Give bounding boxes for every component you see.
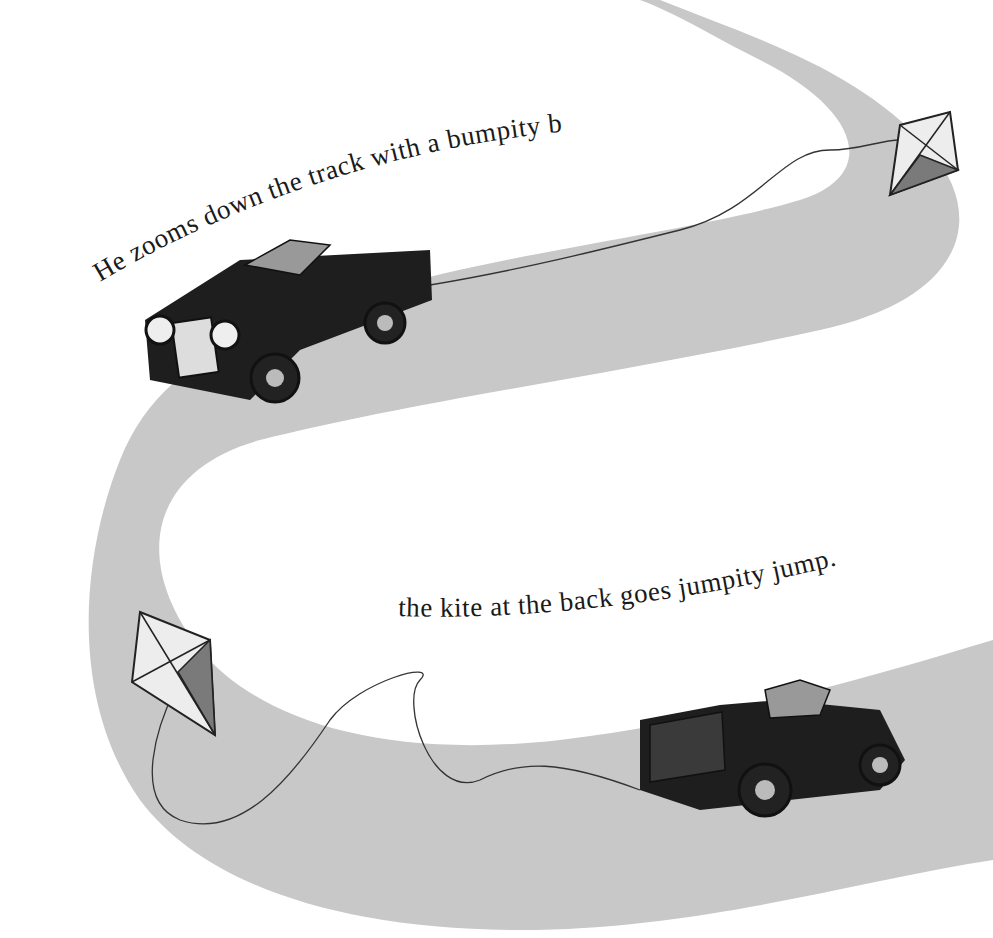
picture-book-page: He zooms down the track with a bumpity b… [0,0,993,938]
illustration: He zooms down the track with a bumpity b… [0,0,993,938]
story-text-line-2: the kite at the back goes jumpity jump. [398,542,839,623]
